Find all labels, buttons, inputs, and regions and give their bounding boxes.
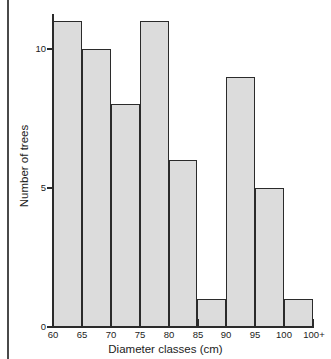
- bar-70: [111, 104, 140, 327]
- x-tick-label-75: 75: [135, 330, 146, 340]
- x-tick-65: [81, 319, 83, 327]
- bar-90: [226, 77, 255, 327]
- x-tick-95: [255, 319, 257, 327]
- bar-95: [255, 188, 284, 327]
- x-tick-85: [197, 319, 199, 327]
- x-tick-label-100: 100: [276, 330, 292, 340]
- x-tick-70: [110, 319, 112, 327]
- bar-80: [169, 160, 198, 327]
- histogram-figure: 0 5 10 60 65 70 75 80 85 90 95 100 100+ …: [0, 0, 331, 359]
- x-tick-label-70: 70: [106, 330, 117, 340]
- x-tick-label-100plus: 100+: [303, 330, 324, 340]
- y-tick-10: [47, 48, 53, 50]
- x-tick-label-65: 65: [77, 330, 88, 340]
- plot-area: [53, 14, 313, 327]
- x-tick-80: [168, 319, 170, 327]
- x-tick-75: [139, 319, 141, 327]
- y-tick-5: [47, 187, 53, 189]
- bar-100: [284, 299, 313, 327]
- x-tick-label-90: 90: [221, 330, 232, 340]
- x-tick-90: [226, 319, 228, 327]
- bar-60: [53, 21, 82, 327]
- x-tick-100plus: [313, 319, 315, 327]
- y-tick-label-5: 5: [36, 183, 46, 193]
- x-tick-60: [53, 319, 55, 327]
- x-tick-label-60: 60: [48, 330, 59, 340]
- x-axis-title: Diameter classes (cm): [0, 343, 331, 355]
- bar-75: [140, 21, 169, 327]
- bar-65: [82, 49, 111, 327]
- x-tick-100: [284, 319, 286, 327]
- y-axis-line: [52, 14, 54, 328]
- x-axis-line: [52, 326, 314, 328]
- x-tick-label-95: 95: [250, 330, 261, 340]
- y-tick-label-10: 10: [30, 44, 46, 54]
- x-tick-label-80: 80: [164, 330, 175, 340]
- bar-85: [197, 299, 226, 327]
- y-axis-title: Number of trees: [18, 106, 30, 226]
- y-tick-label-0: 0: [36, 322, 46, 332]
- x-tick-label-85: 85: [193, 330, 204, 340]
